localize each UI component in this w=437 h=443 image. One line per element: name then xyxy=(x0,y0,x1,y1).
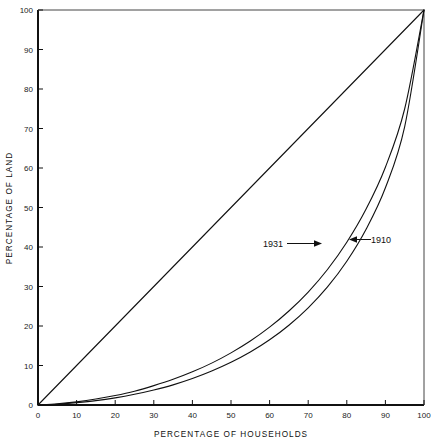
x-tick-label: 0 xyxy=(36,411,41,420)
y-tick-label: 50 xyxy=(24,204,33,213)
x-tick-label: 80 xyxy=(342,411,351,420)
y-tick-label: 80 xyxy=(24,85,33,94)
y-tick-label: 40 xyxy=(24,243,33,252)
chart-container: 0102030405060708090100 01020304050607080… xyxy=(0,0,437,443)
x-axis-title: PERCENTAGE OF HOUSEHOLDS xyxy=(154,430,308,439)
x-tick-label: 50 xyxy=(227,411,236,420)
y-tick-label: 70 xyxy=(24,125,33,134)
y-tick-label: 0 xyxy=(29,401,34,410)
y-tick-label: 90 xyxy=(24,46,33,55)
x-tick-label: 20 xyxy=(111,411,120,420)
x-tick-label: 90 xyxy=(381,411,390,420)
annotation-1910-label: 1910 xyxy=(371,235,391,245)
y-tick-label: 10 xyxy=(24,362,33,371)
annotation-1931-label: 1931 xyxy=(263,239,283,249)
x-tick-label: 30 xyxy=(149,411,158,420)
y-tick-label: 100 xyxy=(20,6,34,15)
x-tick-label: 70 xyxy=(304,411,313,420)
y-tick-label: 60 xyxy=(24,164,33,173)
y-tick-label: 20 xyxy=(24,322,33,331)
x-tick-label: 60 xyxy=(265,411,274,420)
x-tick-label: 10 xyxy=(72,411,81,420)
y-axis-title: PERCENTAGE OF LAND xyxy=(5,152,14,264)
x-tick-label: 40 xyxy=(188,411,197,420)
y-tick-label: 30 xyxy=(24,283,33,292)
lorenz-curve-chart: 0102030405060708090100 01020304050607080… xyxy=(0,0,437,443)
x-tick-label: 100 xyxy=(417,411,431,420)
